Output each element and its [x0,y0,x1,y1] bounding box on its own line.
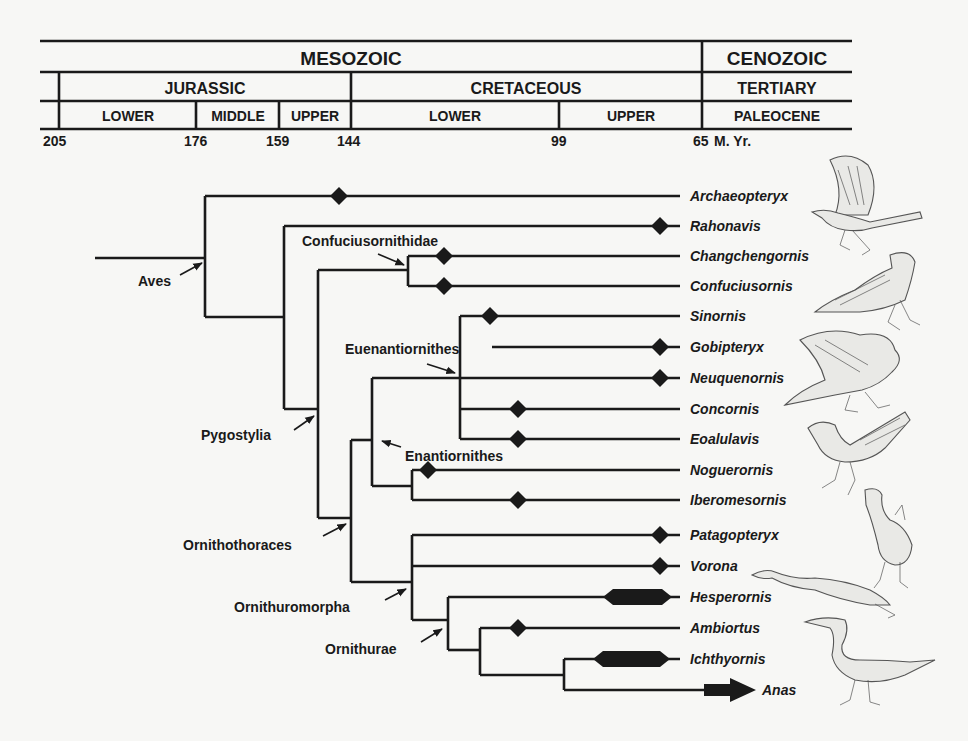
taxon-label-changchengornis: Changchengornis [690,248,809,264]
cladogram-branches [95,196,710,690]
diamond-icon-gobipteryx [651,338,669,356]
diamond-icon-vorona [651,557,669,575]
taxon-label-anas: Anas [761,682,796,698]
taxon-label-noguerornis: Noguerornis [690,462,773,478]
arrow-icon-ornithothoraces [323,524,346,536]
clade-label-ornithothoraces: Ornithothoraces [183,537,292,553]
tick-205: 205 [43,133,67,149]
ichthyornis-illustration [805,618,935,705]
taxon-label-rahonavis: Rahonavis [690,218,761,234]
diamond-icon-sinornis [481,307,499,325]
diamond-icon-changchengornis [435,247,453,265]
taxon-label-hesperornis: Hesperornis [690,589,772,605]
hesperornis-illustration [752,571,895,618]
clade-label-euenantiornithes: Euenantiornithes [345,341,460,357]
taxon-labels: Archaeopteryx Rahonavis Changchengornis … [689,188,809,698]
arrow-icon-ornithuromorpha [385,589,406,600]
clade-label-ornithurae: Ornithurae [325,641,397,657]
arrow-icon-enantiornithes [382,441,401,447]
epoch-paleocene: PALEOCENE [734,108,820,124]
diamond-icon-neuquenornis [651,369,669,387]
period-tertiary: TERTIARY [737,80,817,97]
taxon-label-gobipteryx: Gobipteryx [690,339,765,355]
clade-label-aves: Aves [138,273,171,289]
epoch-middle-jurassic: MIDDLE [211,108,265,124]
era-mesozoic: MESOZOIC [300,48,402,69]
tick-159: 159 [266,133,290,149]
taxon-label-patagopteryx: Patagopteryx [690,527,780,543]
tick-65: 65 [693,133,709,149]
tick-144: 144 [337,133,361,149]
clade-labels: Aves Confuciusornithidae Pygostylia Euen… [138,233,503,657]
era-cenozoic: CENOZOIC [727,48,828,69]
bird-phylogeny-diagram: MESOZOIC CENOZOIC JURASSIC CRETACEOUS TE… [0,0,968,741]
tick-99: 99 [551,133,567,149]
tick-176: 176 [184,133,208,149]
clade-label-ornithuromorpha: Ornithuromorpha [234,599,350,615]
range-bar-icon-hesperornis [603,589,672,605]
arrow-icon-anas-extant [704,678,756,702]
taxon-label-iberomesornis: Iberomesornis [690,492,787,508]
taxon-label-eoalulavis: Eoalulavis [690,431,759,447]
range-bar-icon-ichthyornis [593,651,670,667]
epoch-lower-cretaceous: LOWER [429,108,481,124]
taxon-label-sinornis: Sinornis [690,308,746,324]
diamond-icon-iberomesornis [509,491,527,509]
time-unit-label: M. Yr. [714,133,751,149]
clade-label-enantiornithes: Enantiornithes [405,448,503,464]
confuciusornis-illustration [815,253,920,330]
arrow-icon-aves [180,263,202,275]
arrow-icon-pygostylia [294,416,314,430]
diamond-icon-rahonavis [651,217,669,235]
period-cretaceous: CRETACEOUS [471,80,582,97]
diamond-icon-eoalulavis [509,430,527,448]
taxon-label-ichthyornis: Ichthyornis [690,651,766,667]
diamond-icon-patagopteryx [651,526,669,544]
arrow-icon-euenantiornithes [427,364,455,373]
diamond-icon-concornis [509,400,527,418]
taxon-label-ambiortus: Ambiortus [689,620,760,636]
bird-illustrations [752,156,935,705]
arrow-icon-confuciusornithidae [378,254,404,265]
epoch-upper-cretaceous: UPPER [607,108,655,124]
archaeopteryx-illustration [812,156,922,255]
geologic-timescale: MESOZOIC CENOZOIC JURASSIC CRETACEOUS TE… [40,41,852,149]
clade-label-confuciusornithidae: Confuciusornithidae [302,233,438,249]
taxon-label-neuquenornis: Neuquenornis [690,370,784,386]
taxon-label-archaeopteryx: Archaeopteryx [689,188,789,204]
eoalulavis-illustration [808,412,910,495]
epoch-lower-jurassic: LOWER [102,108,154,124]
taxon-label-concornis: Concornis [690,401,759,417]
period-jurassic: JURASSIC [165,80,246,97]
diamond-icon-ambiortus [509,619,527,637]
diamond-icon-confuciusornis [435,277,453,295]
taxon-label-confuciusornis: Confuciusornis [690,278,793,294]
diamond-icon-archaeopteryx [330,187,348,205]
patagopteryx-illustration [865,489,912,588]
taxon-label-vorona: Vorona [690,558,738,574]
enantiornithine-illustration [785,331,899,412]
arrow-icon-ornithurae [421,629,442,642]
epoch-upper-jurassic: UPPER [291,108,339,124]
clade-label-pygostylia: Pygostylia [201,427,271,443]
